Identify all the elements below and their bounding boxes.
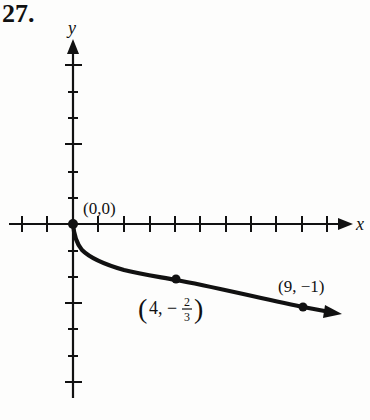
svg-text:2: 2 xyxy=(184,295,190,309)
graph-figure: 27. y x xyxy=(0,0,370,420)
problem-number: 27. xyxy=(2,0,35,28)
svg-text:): ) xyxy=(194,293,203,324)
x-axis-arrow-icon xyxy=(338,218,353,230)
point-9 xyxy=(299,303,308,312)
y-axis-label: y xyxy=(66,18,76,38)
point-origin xyxy=(68,219,78,229)
x-axis-label: x xyxy=(355,214,364,234)
svg-text:4, −: 4, − xyxy=(149,298,177,318)
point-4-label: ( 4, − 2 3 ) xyxy=(138,293,203,324)
y-axis: y xyxy=(65,18,82,398)
origin-label: (0,0) xyxy=(83,199,116,218)
graph-canvas: 27. y x xyxy=(0,0,370,420)
svg-text:(: ( xyxy=(138,293,147,324)
point-4 xyxy=(172,275,181,284)
point-9-label: (9, −1) xyxy=(278,277,324,296)
curve-arrow-icon xyxy=(323,305,342,318)
x-axis: x xyxy=(9,214,364,234)
y-axis-arrow-icon xyxy=(67,39,79,54)
svg-text:3: 3 xyxy=(184,310,190,324)
